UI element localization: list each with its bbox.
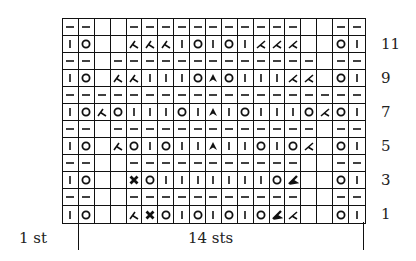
- bold-left-decrease-icon: [271, 209, 283, 221]
- chart-cell: [333, 36, 349, 53]
- chart-cell: [317, 138, 333, 155]
- chart-cell: [206, 87, 222, 104]
- chart-cell: [254, 172, 270, 189]
- chart-cell: [79, 155, 95, 172]
- chart-row-12: [63, 19, 365, 36]
- purl-dash-icon: [223, 123, 235, 135]
- chart-cell: [238, 53, 254, 70]
- right-decrease-icon: [112, 72, 124, 84]
- purl-dash-icon: [207, 55, 219, 67]
- left-decrease-icon: [319, 106, 331, 118]
- chart-cell: [285, 87, 301, 104]
- purl-dash-icon: [255, 55, 267, 67]
- purl-dash-icon: [160, 89, 172, 101]
- right-decrease-icon: [144, 38, 156, 50]
- double-decrease-icon: [207, 140, 219, 152]
- chart-cell: [317, 53, 333, 70]
- chart-cell: [158, 172, 174, 189]
- knit-bar-icon: [223, 106, 235, 118]
- chart-cell: [79, 104, 95, 121]
- purl-dash-icon: [160, 123, 172, 135]
- yarn-over-circle-icon: [176, 106, 188, 118]
- chart-cell: [270, 189, 286, 206]
- chart-cell: [127, 206, 143, 223]
- purl-dash-icon: [335, 55, 347, 67]
- right-decrease-icon: [112, 140, 124, 152]
- yarn-over-circle-icon: [223, 38, 235, 50]
- purl-dash-icon: [287, 89, 299, 101]
- chart-cell: [349, 206, 365, 223]
- chart-row-11: [63, 36, 365, 53]
- knit-bar-icon: [64, 106, 76, 118]
- knit-bar-icon: [160, 106, 172, 118]
- knit-bar-icon: [160, 72, 172, 84]
- yarn-over-circle-icon: [255, 140, 267, 152]
- knit-bar-icon: [176, 209, 188, 221]
- knit-bar-icon: [160, 174, 172, 186]
- chart-cell: [317, 19, 333, 36]
- chart-cell: [238, 36, 254, 53]
- chart-cell: [301, 138, 317, 155]
- purl-dash-icon: [207, 157, 219, 169]
- chart-cell: [206, 19, 222, 36]
- chart-cell: [127, 104, 143, 121]
- chart-cell: [95, 19, 111, 36]
- purl-dash-icon: [303, 89, 315, 101]
- chart-cell: [285, 36, 301, 53]
- purl-dash-icon: [192, 21, 204, 33]
- chart-row-5: [63, 138, 365, 155]
- edge-repeat-divider: [78, 222, 79, 250]
- chart-cell: [174, 206, 190, 223]
- purl-dash-icon: [80, 157, 92, 169]
- chart-cell: [127, 121, 143, 138]
- chart-cell: [142, 206, 158, 223]
- knit-bar-icon: [255, 72, 267, 84]
- chart-cell: [222, 121, 238, 138]
- chart-cell: [349, 70, 365, 87]
- knit-bar-icon: [223, 140, 235, 152]
- chart-cell: [285, 104, 301, 121]
- purl-dash-icon: [176, 89, 188, 101]
- chart-cell: [317, 206, 333, 223]
- purl-dash-icon: [287, 21, 299, 33]
- chart-cell: [222, 36, 238, 53]
- chart-cell: [79, 53, 95, 70]
- knit-bar-icon: [192, 140, 204, 152]
- row-number-3: 3: [381, 173, 391, 188]
- chart-cell: [95, 155, 111, 172]
- yarn-over-circle-icon: [335, 38, 347, 50]
- chart-cell: [190, 70, 206, 87]
- chart-cell: [270, 53, 286, 70]
- chart-cell: [270, 121, 286, 138]
- knit-bar-icon: [351, 38, 363, 50]
- knit-bar-icon: [144, 72, 156, 84]
- chart-cell: [238, 172, 254, 189]
- chart-cell: [349, 19, 365, 36]
- knit-bar-icon: [176, 174, 188, 186]
- knit-bar-icon: [192, 174, 204, 186]
- chart-cell: [111, 87, 127, 104]
- chart-cell: [127, 155, 143, 172]
- row-number-7: 7: [381, 105, 391, 120]
- purl-dash-icon: [223, 157, 235, 169]
- chart-cell: [349, 172, 365, 189]
- purl-dash-icon: [80, 21, 92, 33]
- chart-cell: [63, 138, 79, 155]
- knit-bar-icon: [239, 72, 251, 84]
- chart-cell: [206, 104, 222, 121]
- chart-cell: [158, 155, 174, 172]
- chart-cell: [222, 189, 238, 206]
- chart-cell: [317, 104, 333, 121]
- chart-cell: [333, 53, 349, 70]
- purl-dash-icon: [112, 123, 124, 135]
- purl-dash-icon: [160, 55, 172, 67]
- chart-cell: [222, 104, 238, 121]
- knit-bar-icon: [239, 140, 251, 152]
- purl-dash-icon: [64, 157, 76, 169]
- row-number-11: 11: [381, 37, 400, 52]
- chart-cell: [301, 121, 317, 138]
- chart-cell: [285, 70, 301, 87]
- chart-cell: [79, 189, 95, 206]
- knit-bar-icon: [287, 106, 299, 118]
- purl-dash-icon: [303, 55, 315, 67]
